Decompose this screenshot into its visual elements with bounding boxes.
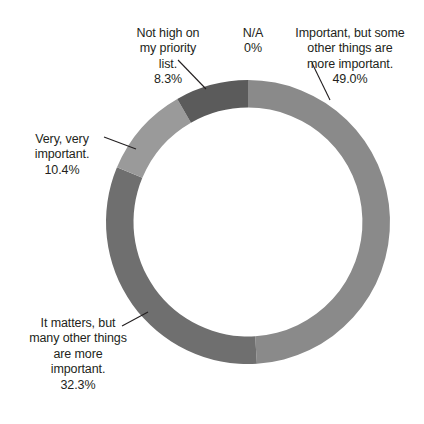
slice-label-percent: 0% — [228, 41, 278, 57]
slice-label-very-very-important: Very, very important. 10.4% — [12, 116, 112, 194]
slice-label-text: Important, but some other things are mor… — [295, 26, 404, 71]
slice-label-percent: 10.4% — [12, 163, 112, 179]
slice-label-text: It matters, but many other things are mo… — [29, 316, 127, 377]
slice-label-percent: 8.3% — [114, 72, 222, 88]
slice-label-text: N/A — [243, 26, 264, 40]
slice-label-not-high-priority: Not high on my priority list. 8.3% — [114, 10, 222, 103]
slice-very-very-important[interactable] — [117, 99, 191, 178]
slice-label-percent: 49.0% — [282, 72, 418, 88]
slice-label-it-matters: It matters, but many other things are mo… — [8, 300, 148, 409]
slice-label-na: N/A 0% — [228, 10, 278, 72]
donut-chart: Not high on my priority list. 8.3% N/A 0… — [0, 0, 424, 424]
slice-label-text: Not high on my priority list. — [137, 26, 200, 71]
slice-important-but-some[interactable] — [248, 80, 390, 364]
slice-label-important-but-some: Important, but some other things are mor… — [282, 10, 418, 103]
slice-label-percent: 32.3% — [8, 378, 148, 394]
donut-slices — [106, 80, 390, 364]
slice-label-text: Very, very important. — [35, 132, 90, 162]
